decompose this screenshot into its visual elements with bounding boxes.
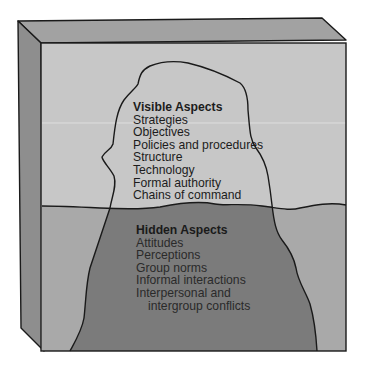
- visible-aspect-item: Chains of command: [133, 189, 263, 202]
- visible-aspect-item: Technology: [133, 164, 263, 177]
- hidden-aspect-item: Perceptions: [136, 249, 250, 262]
- visible-aspects-title: Visible Aspects: [133, 101, 263, 114]
- visible-aspect-item: Objectives: [133, 126, 263, 139]
- hidden-aspects-title: Hidden Aspects: [136, 224, 250, 237]
- visible-aspects-list: Visible Aspects Strategies Objectives Po…: [133, 101, 263, 202]
- hidden-aspect-item-continuation: intergroup conflicts: [136, 300, 250, 313]
- hidden-aspect-item: Interpersonal and: [136, 287, 250, 300]
- box-left-face: [18, 21, 44, 351]
- box-top-face: [18, 18, 346, 43]
- hidden-aspects-list: Hidden Aspects Attitudes Perceptions Gro…: [136, 224, 250, 312]
